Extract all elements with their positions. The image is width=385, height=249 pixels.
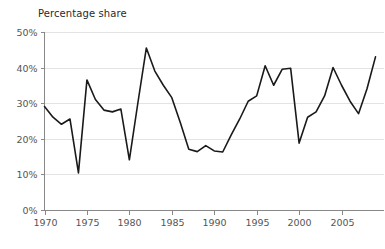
x-tick-labels: 19701975198019851990199520002005	[33, 217, 354, 228]
chart-plot-area: 0%10%20%30%40%50% 1970197519801985199019…	[0, 0, 385, 249]
y-axis	[41, 32, 45, 211]
series-line-percentage-share	[45, 48, 376, 173]
y-tick-label-40: 40%	[16, 63, 37, 74]
x-tick-label-1980: 1980	[117, 217, 141, 228]
y-tick-label-30: 30%	[16, 98, 37, 109]
data-series	[45, 48, 376, 173]
x-tick-label-2000: 2000	[287, 217, 311, 228]
x-tick-label-2005: 2005	[330, 217, 354, 228]
gridlines	[45, 33, 384, 175]
x-axis	[45, 211, 384, 215]
percentage-share-line-chart: Percentage share 0%10%20%30%40%50% 19701…	[0, 0, 385, 249]
y-tick-label-20: 20%	[16, 134, 37, 145]
x-tick-label-1975: 1975	[75, 217, 99, 228]
y-tick-label-0: 0%	[22, 205, 37, 216]
y-tick-label-10: 10%	[16, 169, 37, 180]
x-tick-label-1985: 1985	[160, 217, 184, 228]
x-tick-label-1970: 1970	[33, 217, 57, 228]
x-tick-label-1995: 1995	[245, 217, 269, 228]
x-tick-label-1990: 1990	[202, 217, 226, 228]
y-tick-labels: 0%10%20%30%40%50%	[16, 27, 37, 216]
y-tick-label-50: 50%	[16, 27, 37, 38]
